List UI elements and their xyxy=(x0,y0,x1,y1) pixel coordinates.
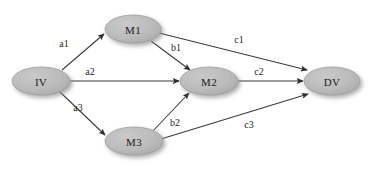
edge-label-c2: c2 xyxy=(254,66,263,77)
node-label-m3: M3 xyxy=(126,136,142,148)
node-label-m2: M2 xyxy=(201,76,217,88)
path-diagram-canvas: IVM1M2M3DV a1a2a3b1b2c1c2c3 xyxy=(0,0,370,173)
node-m2[interactable]: M2 xyxy=(180,67,238,95)
edge-a3 xyxy=(60,92,105,135)
edge-label-c1: c1 xyxy=(234,34,243,45)
node-label-m1: M1 xyxy=(125,24,141,36)
nodes-layer: IVM1M2M3DV xyxy=(12,15,360,155)
edge-label-a3: a3 xyxy=(73,102,82,113)
path-diagram: IVM1M2M3DV a1a2a3b1b2c1c2c3 xyxy=(0,0,370,173)
edge-label-c3: c3 xyxy=(244,119,253,130)
node-m1[interactable]: M1 xyxy=(105,15,161,43)
edge-label-a1: a1 xyxy=(59,38,68,49)
node-label-iv: IV xyxy=(35,76,47,88)
node-dv[interactable]: DV xyxy=(304,67,360,95)
node-iv[interactable]: IV xyxy=(12,67,70,95)
edge-label-a2: a2 xyxy=(85,66,94,77)
edge-c3 xyxy=(161,94,308,139)
edge-label-b1: b1 xyxy=(171,42,181,53)
node-m3[interactable]: M3 xyxy=(105,127,163,155)
edge-label-b2: b2 xyxy=(170,117,180,128)
node-label-dv: DV xyxy=(324,76,341,88)
edge-c1 xyxy=(159,33,307,70)
